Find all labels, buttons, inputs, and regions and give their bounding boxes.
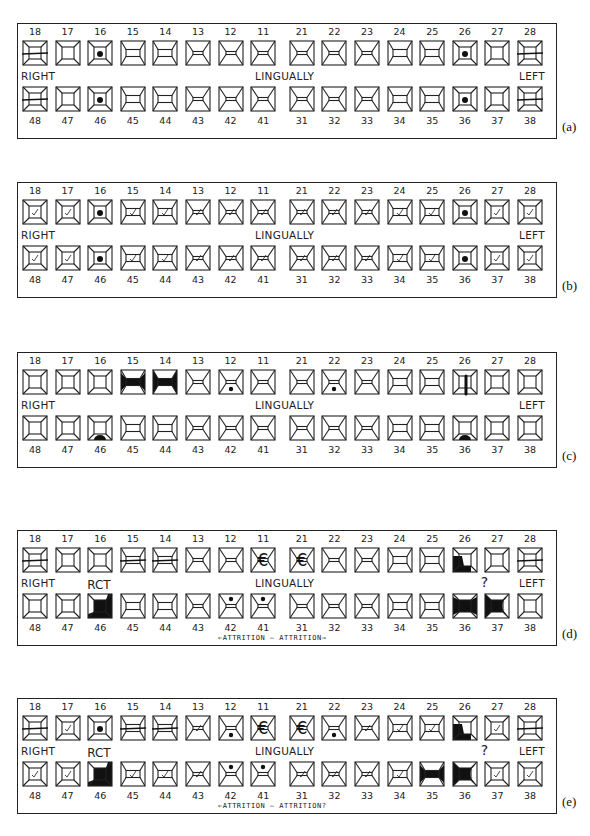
tooth-21[interactable] bbox=[288, 39, 316, 67]
tooth-33[interactable] bbox=[353, 760, 381, 788]
tooth-41[interactable] bbox=[249, 85, 277, 113]
tooth-44[interactable] bbox=[151, 760, 179, 788]
tooth-23[interactable] bbox=[353, 368, 381, 396]
tooth-14[interactable] bbox=[151, 198, 179, 226]
tooth-11[interactable] bbox=[249, 368, 277, 396]
tooth-36[interactable] bbox=[451, 414, 479, 442]
tooth-44[interactable] bbox=[151, 244, 179, 272]
tooth-36[interactable] bbox=[451, 592, 479, 620]
tooth-14[interactable] bbox=[151, 546, 179, 574]
tooth-33[interactable] bbox=[353, 414, 381, 442]
tooth-41[interactable] bbox=[249, 244, 277, 272]
tooth-35[interactable] bbox=[418, 244, 446, 272]
tooth-42[interactable] bbox=[217, 414, 245, 442]
tooth-11[interactable]: € bbox=[249, 714, 277, 742]
tooth-18[interactable] bbox=[21, 546, 49, 574]
tooth-46[interactable] bbox=[86, 760, 114, 788]
tooth-37[interactable] bbox=[483, 414, 511, 442]
tooth-22[interactable] bbox=[320, 714, 348, 742]
tooth-16[interactable] bbox=[86, 368, 114, 396]
tooth-45[interactable] bbox=[119, 244, 147, 272]
tooth-28[interactable] bbox=[516, 39, 544, 67]
tooth-31[interactable] bbox=[288, 414, 316, 442]
tooth-13[interactable] bbox=[184, 198, 212, 226]
tooth-48[interactable] bbox=[21, 85, 49, 113]
tooth-18[interactable] bbox=[21, 714, 49, 742]
tooth-37[interactable] bbox=[483, 592, 511, 620]
tooth-47[interactable] bbox=[54, 592, 82, 620]
tooth-37[interactable] bbox=[483, 244, 511, 272]
tooth-36[interactable] bbox=[451, 244, 479, 272]
tooth-26[interactable] bbox=[451, 546, 479, 574]
tooth-14[interactable] bbox=[151, 368, 179, 396]
tooth-37[interactable] bbox=[483, 85, 511, 113]
tooth-14[interactable] bbox=[151, 39, 179, 67]
tooth-23[interactable] bbox=[353, 198, 381, 226]
tooth-27[interactable] bbox=[483, 546, 511, 574]
tooth-31[interactable] bbox=[288, 85, 316, 113]
tooth-17[interactable] bbox=[54, 198, 82, 226]
tooth-42[interactable] bbox=[217, 760, 245, 788]
tooth-12[interactable] bbox=[217, 198, 245, 226]
tooth-21[interactable]: € bbox=[288, 546, 316, 574]
tooth-43[interactable] bbox=[184, 760, 212, 788]
tooth-25[interactable] bbox=[418, 39, 446, 67]
tooth-27[interactable] bbox=[483, 714, 511, 742]
tooth-44[interactable] bbox=[151, 592, 179, 620]
tooth-24[interactable] bbox=[386, 39, 414, 67]
tooth-37[interactable] bbox=[483, 760, 511, 788]
tooth-32[interactable] bbox=[320, 414, 348, 442]
tooth-28[interactable] bbox=[516, 368, 544, 396]
tooth-22[interactable] bbox=[320, 39, 348, 67]
tooth-12[interactable] bbox=[217, 546, 245, 574]
tooth-25[interactable] bbox=[418, 546, 446, 574]
tooth-22[interactable] bbox=[320, 546, 348, 574]
tooth-15[interactable] bbox=[119, 198, 147, 226]
tooth-34[interactable] bbox=[386, 85, 414, 113]
tooth-26[interactable] bbox=[451, 198, 479, 226]
tooth-41[interactable] bbox=[249, 592, 277, 620]
tooth-31[interactable] bbox=[288, 592, 316, 620]
tooth-16[interactable] bbox=[86, 198, 114, 226]
tooth-45[interactable] bbox=[119, 760, 147, 788]
tooth-46[interactable] bbox=[86, 414, 114, 442]
tooth-25[interactable] bbox=[418, 368, 446, 396]
tooth-27[interactable] bbox=[483, 368, 511, 396]
tooth-42[interactable] bbox=[217, 244, 245, 272]
tooth-23[interactable] bbox=[353, 714, 381, 742]
tooth-11[interactable]: € bbox=[249, 546, 277, 574]
tooth-45[interactable] bbox=[119, 85, 147, 113]
tooth-15[interactable] bbox=[119, 368, 147, 396]
tooth-28[interactable] bbox=[516, 714, 544, 742]
tooth-21[interactable] bbox=[288, 198, 316, 226]
tooth-32[interactable] bbox=[320, 85, 348, 113]
tooth-15[interactable] bbox=[119, 39, 147, 67]
tooth-22[interactable] bbox=[320, 198, 348, 226]
tooth-48[interactable] bbox=[21, 244, 49, 272]
tooth-46[interactable] bbox=[86, 592, 114, 620]
tooth-38[interactable] bbox=[516, 414, 544, 442]
tooth-22[interactable] bbox=[320, 368, 348, 396]
tooth-28[interactable] bbox=[516, 198, 544, 226]
tooth-26[interactable] bbox=[451, 39, 479, 67]
tooth-17[interactable] bbox=[54, 39, 82, 67]
tooth-35[interactable] bbox=[418, 760, 446, 788]
tooth-45[interactable] bbox=[119, 592, 147, 620]
tooth-11[interactable] bbox=[249, 198, 277, 226]
tooth-17[interactable] bbox=[54, 546, 82, 574]
tooth-16[interactable] bbox=[86, 546, 114, 574]
tooth-45[interactable] bbox=[119, 414, 147, 442]
tooth-42[interactable] bbox=[217, 592, 245, 620]
tooth-32[interactable] bbox=[320, 760, 348, 788]
tooth-34[interactable] bbox=[386, 244, 414, 272]
tooth-24[interactable] bbox=[386, 546, 414, 574]
tooth-18[interactable] bbox=[21, 368, 49, 396]
tooth-27[interactable] bbox=[483, 39, 511, 67]
tooth-33[interactable] bbox=[353, 244, 381, 272]
tooth-16[interactable] bbox=[86, 714, 114, 742]
tooth-35[interactable] bbox=[418, 85, 446, 113]
tooth-34[interactable] bbox=[386, 414, 414, 442]
tooth-38[interactable] bbox=[516, 592, 544, 620]
tooth-25[interactable] bbox=[418, 198, 446, 226]
tooth-32[interactable] bbox=[320, 244, 348, 272]
